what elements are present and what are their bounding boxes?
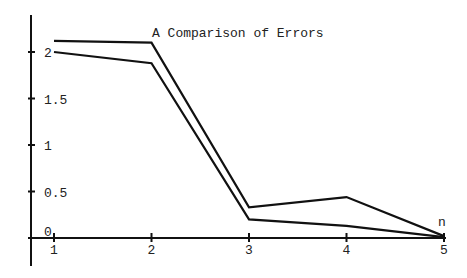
- x-tick-label: 2: [148, 243, 156, 258]
- x-tick-label: 5: [440, 243, 448, 258]
- chart-title: A Comparison of Errors: [152, 26, 324, 41]
- x-ticks: 12345: [50, 233, 448, 258]
- axes: [28, 15, 446, 266]
- x-tick-label: 1: [50, 243, 58, 258]
- series-lines: [54, 41, 444, 237]
- line-chart: 00.511.52 12345 A Comparison of Errors n: [0, 0, 467, 278]
- x-axis-label: n: [438, 215, 446, 230]
- series-line-1: [54, 41, 444, 236]
- y-tick-label: 0: [44, 225, 52, 240]
- y-tick-label: 1: [44, 139, 52, 154]
- x-tick-label: 4: [343, 243, 351, 258]
- y-tick-label: 0.5: [44, 186, 67, 201]
- y-ticks: 00.511.52: [28, 46, 67, 240]
- y-tick-label: 1.5: [44, 93, 67, 108]
- x-tick-label: 3: [245, 243, 253, 258]
- series-line-2: [54, 52, 444, 237]
- y-tick-label: 2: [44, 46, 52, 61]
